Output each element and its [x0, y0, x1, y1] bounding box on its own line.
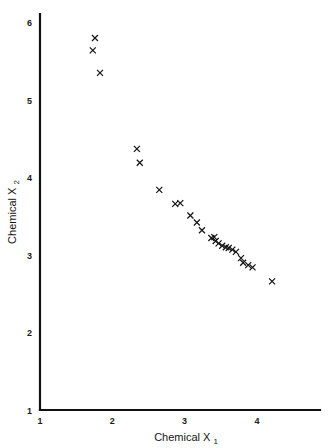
marker-x-icon: [199, 227, 205, 233]
data-point: [90, 47, 96, 53]
data-point: [134, 146, 140, 152]
data-point-group: [90, 35, 275, 284]
data-point: [156, 187, 162, 193]
data-point: [92, 35, 98, 41]
y-tick-label-2: 2: [27, 328, 32, 338]
marker-x-icon: [269, 278, 275, 284]
y-axis-title: Chemical X 2: [6, 180, 21, 244]
data-point: [177, 200, 183, 206]
x-tick-label-3: 3: [182, 416, 187, 426]
data-point: [199, 227, 205, 233]
x-axis-tick-labels: 1234: [37, 416, 259, 426]
data-point: [269, 278, 275, 284]
marker-x-icon: [92, 35, 98, 41]
y-tick-label-6: 6: [27, 18, 32, 28]
marker-x-icon: [156, 187, 162, 193]
y-axis-tick-labels: 123456: [27, 18, 32, 416]
marker-x-icon: [97, 70, 103, 76]
marker-x-icon: [134, 146, 140, 152]
marker-x-icon: [194, 219, 200, 225]
data-point: [187, 212, 193, 218]
data-point: [97, 70, 103, 76]
data-point: [137, 160, 143, 166]
x-tick-label-2: 2: [110, 416, 115, 426]
marker-x-icon: [177, 200, 183, 206]
plot-canvas: 123456 1234 Chemical X 1 Chemical X 2: [0, 0, 334, 448]
marker-x-icon: [137, 160, 143, 166]
y-tick-label-5: 5: [27, 96, 32, 106]
data-point: [194, 219, 200, 225]
y-tick-label-1: 1: [27, 406, 32, 416]
x-tick-label-1: 1: [37, 416, 42, 426]
marker-x-icon: [90, 47, 96, 53]
marker-x-icon: [187, 212, 193, 218]
y-tick-label-3: 3: [27, 251, 32, 261]
x-axis-title: Chemical X 1: [154, 431, 218, 446]
y-tick-label-4: 4: [27, 173, 32, 183]
x-tick-label-4: 4: [254, 416, 259, 426]
scatter-plot-figure: 123456 1234 Chemical X 1 Chemical X 2: [0, 0, 334, 448]
